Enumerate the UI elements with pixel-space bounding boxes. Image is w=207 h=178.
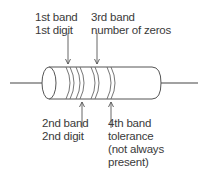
label-band1-line2: 1st digit bbox=[35, 24, 78, 37]
label-band3-line1: 3rd band bbox=[91, 11, 171, 24]
label-band4-line3: (not always bbox=[108, 143, 164, 156]
label-band2-line1: 2nd band bbox=[42, 117, 88, 130]
label-band1: 1st band 1st digit bbox=[35, 11, 78, 37]
label-band3-line2: number of zeros bbox=[91, 24, 171, 37]
label-band3: 3rd band number of zeros bbox=[91, 11, 171, 37]
label-band4-line4: present) bbox=[108, 156, 164, 169]
label-band2-line2: 2nd digit bbox=[42, 130, 88, 143]
resistor-end-cap bbox=[42, 67, 56, 99]
label-band4: 4th band tolerance (not always present) bbox=[108, 117, 164, 169]
label-band4-line2: tolerance bbox=[108, 130, 164, 143]
label-band1-line1: 1st band bbox=[35, 11, 78, 24]
label-band4-line1: 4th band bbox=[108, 117, 164, 130]
resistor-body bbox=[49, 67, 161, 99]
label-band2: 2nd band 2nd digit bbox=[42, 117, 88, 143]
